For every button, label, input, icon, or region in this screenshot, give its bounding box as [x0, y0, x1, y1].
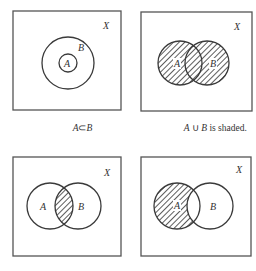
caption-part: ⊂ [78, 123, 86, 133]
set-b-label: B [210, 58, 216, 69]
set-a-label: A [39, 201, 47, 212]
panel-difference: X A B [141, 157, 251, 256]
venn-diagram-figure: X A B A⊂B X A B A ∪ B is shaded. X A B [0, 0, 256, 271]
set-a-label: A [173, 58, 181, 69]
universe-label: X [235, 164, 243, 175]
panel-intersection: X A B [13, 157, 121, 256]
set-a-label: A [173, 200, 181, 211]
set-b-label: B [78, 201, 84, 212]
universe-label: X [103, 167, 111, 178]
caption-part: is shaded. [207, 123, 247, 133]
set-a-label: A [63, 58, 71, 69]
universe-label: X [102, 20, 110, 31]
caption-part: B [86, 123, 92, 133]
set-b-label: B [210, 201, 216, 212]
universe-label: X [233, 21, 241, 32]
caption-subset: A⊂B [56, 123, 104, 133]
caption-part: ∪ [189, 123, 201, 133]
set-b-label: B [78, 42, 84, 53]
panel-union: X A B A ∪ B is shaded. [141, 12, 256, 133]
caption-union: A ∪ B is shaded. [167, 123, 256, 133]
panel-subset: X A B A⊂B [13, 11, 121, 133]
